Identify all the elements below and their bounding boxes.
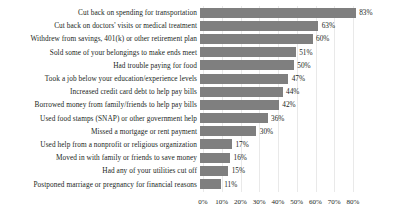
bar-wrapper: 36%	[200, 112, 398, 125]
x-tick-label: 50%	[290, 198, 303, 207]
bar-wrapper: 47%	[200, 72, 398, 85]
bar-wrapper: 60%	[200, 32, 398, 45]
bar	[200, 179, 221, 189]
bar-row: Cut back on spending for transportation8…	[0, 6, 398, 19]
bar	[200, 21, 318, 31]
category-label: Had any of your utilities cut off	[0, 166, 200, 175]
bar-value-label: 47%	[288, 74, 305, 83]
bar-wrapper: 16%	[200, 151, 398, 164]
bar-wrapper: 30%	[200, 125, 398, 138]
category-label: Cut back on spending for transportation	[0, 8, 200, 17]
category-label: Postponed marriage or pregnancy for fina…	[0, 180, 200, 189]
bar-wrapper: 17%	[200, 138, 398, 151]
bar-value-label: 17%	[232, 140, 249, 149]
bar-value-label: 11%	[221, 180, 238, 189]
bar	[200, 34, 313, 44]
bar-value-label: 63%	[318, 21, 335, 30]
bar-row: Cut back on doctors' visits or medical t…	[0, 19, 398, 32]
bar-row: Sold some of your belongings to make end…	[0, 46, 398, 59]
bar-row: Used food stamps (SNAP) or other governm…	[0, 112, 398, 125]
x-tick-label: 40%	[272, 198, 285, 207]
bar-wrapper: 15%	[200, 164, 398, 177]
x-tick-label: 60%	[309, 198, 322, 207]
bar-row: Postponed marriage or pregnancy for fina…	[0, 177, 398, 190]
x-tick-label: 70%	[328, 198, 341, 207]
bar-wrapper: 42%	[200, 98, 398, 111]
bar-wrapper: 11%	[200, 177, 398, 190]
bar-value-label: 42%	[279, 100, 296, 109]
category-label: Cut back on doctors' visits or medical t…	[0, 21, 200, 30]
bar-value-label: 30%	[256, 127, 273, 136]
bar	[200, 74, 288, 84]
category-label: Had trouble paying for food	[0, 61, 200, 70]
bar-wrapper: 44%	[200, 85, 398, 98]
category-label: Increased credit card debt to help pay b…	[0, 87, 200, 96]
bar-row: Missed a mortgage or rent payment30%	[0, 125, 398, 138]
bar-wrapper: 83%	[200, 6, 398, 19]
bar-row: Took a job below your education/experien…	[0, 72, 398, 85]
x-tick-label: 20%	[234, 198, 247, 207]
bar	[200, 126, 256, 136]
bar	[200, 60, 294, 70]
category-label: Borrowed money from family/friends to he…	[0, 100, 200, 109]
bar-value-label: 50%	[294, 61, 311, 70]
bar	[200, 87, 283, 97]
bar-value-label: 16%	[230, 153, 247, 162]
category-label: Sold some of your belongings to make end…	[0, 48, 200, 57]
category-label: Used help from a nonprofit or religious …	[0, 140, 200, 149]
bar-row: Withdrew from savings, 401(k) or other r…	[0, 32, 398, 45]
bar-chart: Cut back on spending for transportation8…	[0, 0, 398, 224]
x-tick-label: 0%	[198, 198, 207, 207]
bar	[200, 47, 296, 57]
bar	[200, 153, 230, 163]
x-axis: 0%10%20%30%40%50%60%70%80%	[203, 198, 353, 210]
bar-value-label: 60%	[313, 34, 330, 43]
x-tick-label: 10%	[215, 198, 228, 207]
bar-rows: Cut back on spending for transportation8…	[0, 6, 398, 191]
bar-row: Had any of your utilities cut off15%	[0, 164, 398, 177]
bar-row: Borrowed money from family/friends to he…	[0, 98, 398, 111]
category-label: Moved in with family or friends to save …	[0, 153, 200, 162]
category-label: Used food stamps (SNAP) or other governm…	[0, 114, 200, 123]
bar-value-label: 15%	[228, 166, 245, 175]
bar-value-label: 83%	[356, 8, 373, 17]
bar	[200, 139, 232, 149]
bar-value-label: 44%	[283, 87, 300, 96]
bar-row: Had trouble paying for food50%	[0, 59, 398, 72]
bar-value-label: 51%	[296, 48, 313, 57]
bar-wrapper: 51%	[200, 46, 398, 59]
bar-value-label: 36%	[268, 114, 285, 123]
x-tick-label: 30%	[253, 198, 266, 207]
category-label: Missed a mortgage or rent payment	[0, 127, 200, 136]
category-label: Withdrew from savings, 401(k) or other r…	[0, 34, 200, 43]
bar	[200, 8, 356, 18]
bar-wrapper: 50%	[200, 59, 398, 72]
bar-wrapper: 63%	[200, 19, 398, 32]
bar-row: Used help from a nonprofit or religious …	[0, 138, 398, 151]
category-label: Took a job below your education/experien…	[0, 74, 200, 83]
bar	[200, 166, 228, 176]
bar	[200, 113, 268, 123]
bar-row: Increased credit card debt to help pay b…	[0, 85, 398, 98]
x-tick-label: 80%	[347, 198, 360, 207]
bar-row: Moved in with family or friends to save …	[0, 151, 398, 164]
bar	[200, 100, 279, 110]
